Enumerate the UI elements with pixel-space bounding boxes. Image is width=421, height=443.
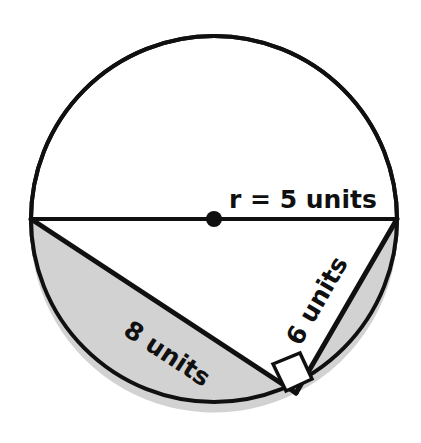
circle-diagram-svg: r = 5 units 8 units 6 units (0, 0, 421, 443)
radius-label: r = 5 units (229, 185, 377, 214)
geometry-figure: r = 5 units 8 units 6 units (0, 0, 421, 443)
center-point-dot (206, 211, 222, 227)
